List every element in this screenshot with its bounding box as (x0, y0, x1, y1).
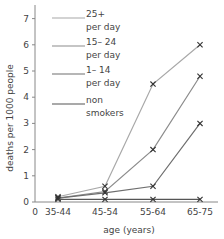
legend-label: per day (86, 50, 121, 60)
legend: 25+per day15– 24per day1– 14per daynonsm… (52, 9, 124, 118)
y-tick-label: 5 (23, 66, 29, 76)
y-tick-label: 6 (23, 40, 29, 50)
x-axis: 035-4445-5455-6465-75 (32, 202, 218, 217)
x-tick-label: 55-64 (140, 207, 166, 217)
series-15-24-per-day (55, 74, 202, 201)
legend-label: non (86, 95, 103, 105)
legend-item: 15– 24per day (52, 37, 121, 60)
y-axis-title: deaths per 1000 people (5, 64, 15, 172)
series-25-per-day (55, 42, 202, 199)
x-marker-icon (150, 82, 155, 87)
x-tick-label: 35-44 (45, 207, 71, 217)
x-marker-icon (150, 147, 155, 152)
x-marker-icon (197, 74, 202, 79)
x-tick-label: 45-54 (92, 207, 118, 217)
legend-label: 15– 24 (86, 37, 117, 47)
x-axis-title: age (years) (103, 225, 154, 235)
y-tick-label: 4 (23, 92, 29, 102)
legend-item: 25+per day (52, 9, 121, 32)
x-marker-icon (197, 121, 202, 126)
y-tick-label: 0 (23, 197, 29, 207)
x-origin-label: 0 (32, 207, 38, 217)
y-tick-label: 3 (23, 118, 29, 128)
x-marker-icon (197, 42, 202, 47)
line-chart: 01234567 035-4445-5455-6465-75 25+per da… (0, 0, 224, 239)
series-1-14-per-day (55, 121, 202, 201)
series-non-smokers (55, 197, 202, 202)
y-axis: 01234567 (23, 5, 35, 207)
legend-item: 1– 14per day (52, 65, 121, 88)
legend-label: 25+ (86, 9, 105, 19)
legend-item: nonsmokers (52, 95, 124, 118)
y-tick-label: 1 (23, 171, 29, 181)
legend-label: per day (86, 22, 121, 32)
legend-label: per day (86, 78, 121, 88)
series-lines (55, 42, 202, 202)
x-tick-label: 65-75 (187, 207, 213, 217)
y-tick-label: 7 (23, 14, 29, 24)
legend-label: 1– 14 (86, 65, 111, 75)
y-tick-label: 2 (23, 145, 29, 155)
legend-label: smokers (86, 108, 124, 118)
